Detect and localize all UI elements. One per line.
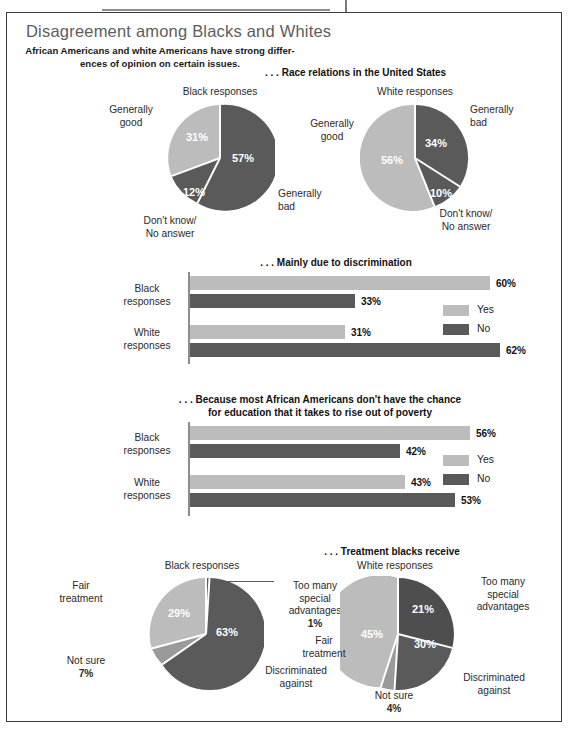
bar-group-label-white-discrimination: Whiteresponses xyxy=(110,327,184,352)
bar-group-label-white-education: Whiteresponses xyxy=(110,477,184,502)
pie-value-race-black-bad: 57% xyxy=(232,152,254,164)
legend-label-yes-education: Yes xyxy=(477,454,494,465)
pie-label-race-white-good: Generallygood xyxy=(296,118,368,143)
figure-rule xyxy=(102,9,330,11)
pie-value-treatment-white-fair: 45% xyxy=(361,628,383,640)
leader-line-treatment-black-special xyxy=(212,581,274,582)
pie-heading-white-treatment: White responses xyxy=(325,560,465,573)
bar-white-yes-education xyxy=(190,475,405,489)
legend-label-yes-discrimination: Yes xyxy=(477,304,494,315)
bar-white-no-education xyxy=(190,493,455,507)
figure-number-band xyxy=(0,0,576,12)
pie-value-race-black-dontknow: 12% xyxy=(183,186,205,198)
pie-chart-treatment-white xyxy=(340,576,456,692)
pie-label-treatment-white-discriminated: Discriminatedagainst xyxy=(448,672,540,697)
pie-value-treatment-black-special: 1% xyxy=(308,618,323,629)
bar-value-black-yes-discrimination: 60% xyxy=(496,278,516,289)
figure-subtitle: African Americans and white Americans ha… xyxy=(22,44,298,70)
legend-label-no-education: No xyxy=(477,473,490,484)
pie-heading-white-race: White responses xyxy=(345,86,485,99)
section-title-discrimination: . . . Mainly due to discrimination xyxy=(186,256,486,269)
column-divider xyxy=(345,0,347,12)
bar-white-yes-discrimination xyxy=(190,325,345,339)
bar-black-yes-education xyxy=(190,426,470,440)
pie-chart-race-black xyxy=(165,103,275,213)
pie-value-treatment-white-special: 21% xyxy=(412,603,434,615)
bar-value-white-no-discrimination: 62% xyxy=(506,345,526,356)
section-title-race-relations: . . . Race relations in the United State… xyxy=(265,66,446,79)
bar-black-no-education xyxy=(190,444,400,458)
bar-white-no-discrimination xyxy=(190,343,500,357)
pie-heading-black-race: Black responses xyxy=(150,86,290,99)
pie-value-race-white-dontknow: 10% xyxy=(430,187,452,199)
legend-swatch-yes-discrimination xyxy=(443,305,469,316)
pie-label-race-black-bad: Generallybad xyxy=(278,188,322,213)
page-title: Disagreement among Blacks and Whites xyxy=(26,22,331,41)
bar-value-black-no-education: 42% xyxy=(406,446,426,457)
legend-label-no-discrimination: No xyxy=(477,323,490,334)
bar-value-black-no-discrimination: 33% xyxy=(361,296,381,307)
section-title-education-line1: . . . Because most African Americans don… xyxy=(179,394,461,405)
pie-value-race-white-good: 56% xyxy=(381,154,403,166)
bar-black-no-discrimination xyxy=(190,294,355,308)
pie-chart-race-white xyxy=(360,103,470,213)
legend-swatch-no-education xyxy=(443,474,469,485)
pie-value-race-white-bad: 34% xyxy=(425,137,447,149)
pie-label-treatment-black-notsure: Not sure 7% xyxy=(54,655,118,680)
legend-swatch-yes-education xyxy=(443,455,469,466)
pie-value-race-black-good: 31% xyxy=(186,131,208,143)
pie-value-treatment-white-notsure: 4% xyxy=(387,703,402,714)
bar-value-black-yes-education: 56% xyxy=(476,428,496,439)
pie-label-treatment-white-special: Too manyspecialadvantages xyxy=(463,576,543,614)
section-title-treatment: . . . Treatment blacks receive xyxy=(272,545,512,558)
pie-value-treatment-black-discriminated: 63% xyxy=(216,626,238,638)
section-title-education-line2: for education that it takes to rise out … xyxy=(208,407,432,418)
pie-label-race-black-good: Generallygood xyxy=(95,104,167,129)
bar-group-label-black-discrimination: Blackresponses xyxy=(110,283,184,308)
pie-label-race-white-dontknow: Don't know/No answer xyxy=(418,208,514,233)
bar-black-yes-discrimination xyxy=(190,276,490,290)
bar-group-label-black-education: Blackresponses xyxy=(110,432,184,457)
pie-label-treatment-white-notsure: Not sure 4% xyxy=(362,690,426,715)
pie-value-treatment-black-fair: 29% xyxy=(168,607,190,619)
legend-swatch-no-discrimination xyxy=(443,324,469,335)
pie-value-treatment-white-discriminated: 30% xyxy=(414,638,436,650)
bar-value-white-yes-education: 43% xyxy=(411,477,431,488)
pie-label-treatment-black-fair: Fairtreatment xyxy=(44,580,118,605)
pie-label-race-black-dontknow: Don't know/No answer xyxy=(122,215,218,240)
pie-label-treatment-black-discriminated: Discriminatedagainst xyxy=(250,665,342,690)
pie-label-race-white-bad: Generallybad xyxy=(470,104,514,129)
pie-label-treatment-black-notsure-text: Not sure xyxy=(67,655,106,666)
section-title-education: . . . Because most African Americans don… xyxy=(150,393,490,419)
pie-label-treatment-white-fair: Fairtreatment xyxy=(288,635,360,660)
bar-value-white-no-education: 53% xyxy=(461,495,481,506)
pie-value-treatment-black-notsure: 7% xyxy=(79,668,94,679)
bar-value-white-yes-discrimination: 31% xyxy=(351,327,371,338)
pie-heading-black-treatment: Black responses xyxy=(132,560,272,573)
pie-chart-treatment-black xyxy=(148,576,264,692)
pie-label-treatment-white-notsure-text: Not sure xyxy=(375,690,414,701)
